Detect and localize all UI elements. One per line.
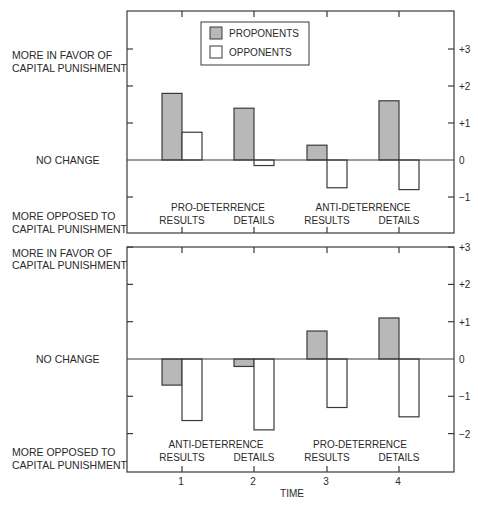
bottom-category-label-3: RESULTS: [304, 452, 350, 463]
x-tick-label-2: 2: [250, 476, 256, 487]
opponent-bar: [182, 359, 202, 421]
proponent-bar: [162, 93, 182, 160]
bottom-no-change-label: NO CHANGE: [36, 353, 100, 365]
top-group-label-2: ANTI-DETERRENCE: [315, 202, 410, 213]
proponent-bar: [307, 331, 327, 359]
x-tick-label-4: 4: [395, 476, 401, 487]
opponent-bar: [399, 160, 419, 190]
bottom-opposed-label-line1: MORE OPPOSED TO: [12, 446, 115, 458]
x-tick-label-3: 3: [323, 476, 329, 487]
bottom-panel-ticks: +3+2+10−1−2: [127, 242, 471, 472]
y-tick-label: 0: [459, 354, 465, 365]
legend-label-proponents: PROPONENTS: [229, 28, 299, 39]
opponent-bar: [182, 132, 202, 160]
opponent-bar: [254, 359, 274, 430]
bottom-group-label-2: PRO-DETERRENCE: [313, 439, 407, 450]
bottom-panel: +3+2+10−1−2 MORE IN FAVOR OF CAPITAL PUN…: [12, 242, 471, 499]
bottom-panel-bars: [162, 318, 419, 430]
top-group-label-1: PRO-DETERRENCE: [171, 202, 265, 213]
x-tick-label-1: 1: [178, 476, 184, 487]
opponent-bar: [327, 359, 347, 407]
opponent-bar: [254, 160, 274, 166]
top-favor-label-line1: MORE IN FAVOR OF: [12, 49, 112, 61]
x-axis-title: TIME: [280, 488, 304, 499]
bottom-category-label-2: DETAILS: [234, 452, 275, 463]
bottom-category-label-1: RESULTS: [159, 452, 205, 463]
y-tick-label: +3: [459, 44, 471, 55]
top-category-label-3: RESULTS: [304, 215, 350, 226]
bottom-category-label-4: DETAILS: [379, 452, 420, 463]
bottom-group-label-1: ANTI-DETERRENCE: [168, 439, 263, 450]
bottom-favor-label-line1: MORE IN FAVOR OF: [12, 247, 112, 259]
legend-swatch-proponents: [210, 27, 222, 39]
proponent-bar: [379, 101, 399, 160]
chart-canvas: +3+2+10−1 MORE IN FAVOR OF CAPITAL PUNIS…: [0, 0, 478, 507]
legend-label-opponents: OPPONENTS: [229, 47, 292, 58]
y-tick-label: 0: [459, 155, 465, 166]
top-opposed-label-line1: MORE OPPOSED TO: [12, 210, 115, 222]
proponent-bar: [379, 318, 399, 359]
proponent-bar: [307, 145, 327, 160]
y-tick-label: +2: [459, 279, 471, 290]
y-tick-label: +1: [459, 317, 471, 328]
y-tick-label: −1: [459, 391, 471, 402]
proponent-bar: [234, 359, 254, 366]
top-category-label-2: DETAILS: [234, 215, 275, 226]
proponent-bar: [162, 359, 182, 385]
top-panel: +3+2+10−1 MORE IN FAVOR OF CAPITAL PUNIS…: [12, 11, 471, 235]
top-no-change-label: NO CHANGE: [36, 154, 100, 166]
bottom-opposed-label-line2: CAPITAL PUNISHMENT: [12, 459, 128, 471]
legend-swatch-opponents: [210, 46, 222, 58]
top-panel-bars: [162, 93, 419, 189]
y-tick-label: −2: [459, 429, 471, 440]
bottom-favor-label-line2: CAPITAL PUNISHMENT: [12, 259, 128, 271]
y-tick-label: +1: [459, 118, 471, 129]
y-tick-label: −1: [459, 192, 471, 203]
top-favor-label-line2: CAPITAL PUNISHMENT: [12, 62, 128, 74]
opponent-bar: [399, 359, 419, 417]
top-category-label-1: RESULTS: [159, 215, 205, 226]
top-opposed-label-line2: CAPITAL PUNISHMENT: [12, 223, 128, 235]
opponent-bar: [327, 160, 347, 188]
y-tick-label: +2: [459, 81, 471, 92]
legend: PROPONENTS OPPONENTS: [201, 22, 309, 65]
y-tick-label: +3: [459, 242, 471, 253]
proponent-bar: [234, 108, 254, 160]
chart-figure: +3+2+10−1 MORE IN FAVOR OF CAPITAL PUNIS…: [0, 0, 478, 507]
top-category-label-4: DETAILS: [379, 215, 420, 226]
